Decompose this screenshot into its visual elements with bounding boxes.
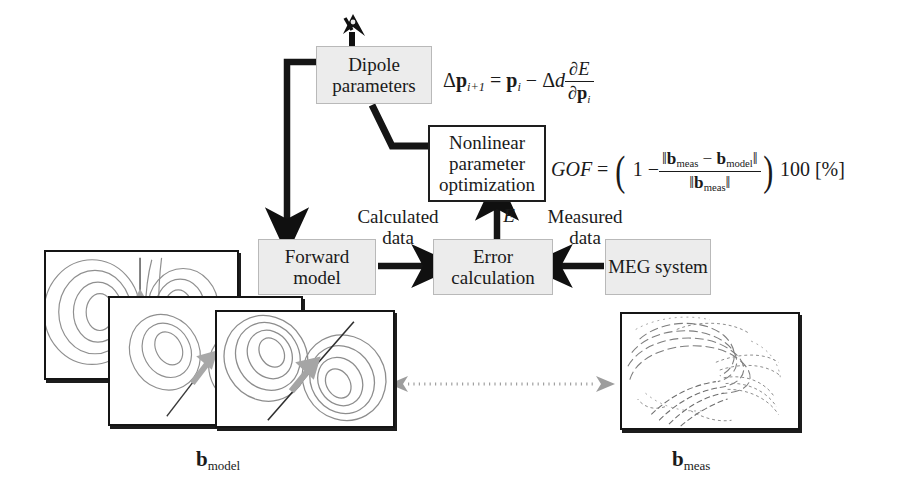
- edge-dipole-to-forward-model: [287, 62, 318, 228]
- gof-numerator: ‖bmeas − bmodel‖: [659, 148, 761, 172]
- contour-map-measured: [622, 314, 798, 428]
- diagram-canvas: Dipole parameters Nonlinear parameter op…: [0, 0, 913, 493]
- update-grad-partial: ∂: [568, 83, 577, 103]
- update-grad-p: p: [577, 83, 587, 103]
- edge-dipole-to-nonlinear: [372, 105, 430, 146]
- update-delta: Δ: [443, 69, 456, 91]
- update-step-delta: Δ: [542, 69, 555, 91]
- gof-one: 1: [633, 158, 643, 180]
- update-minus: −: [526, 69, 537, 91]
- update-gradient-fraction: ∂E ∂pi: [565, 58, 594, 106]
- caption-b-model-symbol: b: [196, 447, 208, 471]
- gof-paren-close: ): [763, 158, 773, 185]
- update-lhs-p: p: [456, 69, 467, 91]
- gof-num-b-model: b: [717, 149, 727, 168]
- box-dipole-parameters[interactable]: Dipole parameters: [316, 46, 432, 104]
- gof-den-b-sub: meas: [704, 182, 726, 193]
- gof-equals: =: [597, 158, 608, 180]
- gof-num-b-model-sub: model: [726, 158, 753, 169]
- arrow-compare-model-measured: [389, 376, 615, 392]
- field-map-measured: [620, 312, 800, 430]
- gof-ratio: ‖bmeas − bmodel‖ ‖bmeas‖: [659, 148, 761, 195]
- box-dipole-parameters-label: Dipole parameters: [317, 54, 431, 97]
- box-nonlinear-optimization-label: Nonlinear parameter optimization: [430, 132, 544, 196]
- gof-minus: −: [648, 158, 659, 180]
- dipole-arrow-mid: [192, 350, 217, 383]
- gof-num-minus: −: [703, 149, 713, 168]
- gof-name: GOF: [551, 158, 592, 180]
- update-rhs-p: p: [506, 69, 517, 91]
- update-gradient-denominator: ∂pi: [565, 82, 594, 106]
- label-calculated-data: Calculated data: [340, 207, 456, 249]
- gof-paren-open: (: [616, 158, 626, 185]
- caption-b-meas: bmeas: [672, 447, 710, 474]
- dipole-arrow-front: [291, 356, 320, 391]
- update-equals: =: [490, 69, 501, 91]
- update-rhs-sub: i: [517, 80, 520, 94]
- label-error-symbol: E: [498, 206, 520, 227]
- contour-map-front: [217, 312, 393, 426]
- gof-unit: [%]: [815, 158, 845, 180]
- box-forward-model-label: Forward model: [259, 246, 375, 289]
- gof-denominator: ‖bmeas‖: [659, 172, 761, 195]
- box-error-calculation-label: Error calculation: [434, 246, 552, 289]
- update-lhs-sub: i+1: [467, 80, 485, 94]
- gof-den-b: b: [694, 173, 704, 192]
- update-gradient-numerator: ∂E: [565, 58, 594, 82]
- update-grad-sub: i: [587, 93, 590, 105]
- update-step-d: d: [555, 69, 565, 91]
- gof-num-b-meas: b: [667, 149, 677, 168]
- label-measured-data: Measured data: [527, 207, 643, 249]
- caption-b-meas-symbol: b: [672, 447, 684, 471]
- formula-gof: GOF = ( 1 − ‖bmeas − bmodel‖ ‖bmeas‖ ) 1…: [551, 148, 845, 195]
- box-nonlinear-optimization[interactable]: Nonlinear parameter optimization: [428, 125, 546, 202]
- caption-b-model: bmodel: [196, 447, 240, 474]
- caption-b-model-sub: model: [208, 458, 241, 473]
- gof-num-b-meas-sub: meas: [676, 158, 698, 169]
- box-meg-system-label: MEG system: [608, 256, 708, 277]
- caption-b-meas-sub: meas: [684, 458, 711, 473]
- gof-scale: 100: [780, 158, 810, 180]
- formula-update-rule: Δpi+1 = pi − Δd ∂E ∂pi: [443, 58, 594, 106]
- field-map-model-front: [215, 310, 395, 428]
